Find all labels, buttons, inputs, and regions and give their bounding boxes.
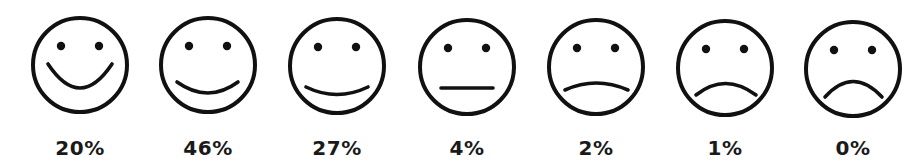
face-outline [290,19,384,113]
eye [611,44,619,52]
face-slightly-happy-icon [290,19,384,113]
eye [444,44,452,52]
mouth [696,84,756,96]
eye [830,46,838,54]
face-sad-icon [678,21,772,115]
percentage-label-slightly-sad: 2% [556,136,636,160]
eye [482,44,490,52]
face-very-sad-icon [806,22,900,116]
percentage-label-slightly-happy: 27% [297,136,377,160]
eye [573,44,581,52]
face-outline [806,22,900,116]
percentage-label-very-happy: 20% [40,136,120,160]
face-outline [420,20,514,114]
eye [185,42,193,50]
mouth [48,64,112,88]
percentage-label-very-sad: 0% [813,136,893,160]
eye [740,45,748,53]
face-outline [161,18,255,112]
face-slightly-sad-icon [549,20,643,114]
percentage-label-happy: 46% [168,136,248,160]
eye [95,42,103,50]
face-outline [549,20,643,114]
face-outline [678,21,772,115]
face-neutral-icon [420,20,514,114]
eye [223,42,231,50]
mouth [565,83,628,90]
eye [57,42,65,50]
percentage-label-sad: 1% [685,136,765,160]
percentage-label-neutral: 4% [427,136,507,160]
mouth [177,82,238,93]
eye [702,45,710,53]
eye [868,46,876,54]
mouth [306,87,368,95]
face-very-happy-icon [33,18,127,112]
eye [352,43,360,51]
eye [314,43,322,51]
mouth [825,82,882,98]
face-happy-icon [161,18,255,112]
